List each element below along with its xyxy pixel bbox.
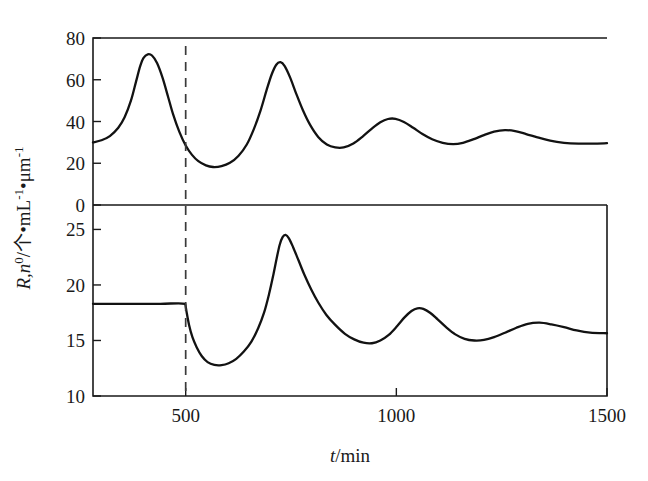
x-tick-label-500: 500 (171, 405, 200, 426)
upper-y-tick-label-0: 0 (76, 195, 86, 216)
lower-data-curve (93, 235, 607, 365)
figure-container: 020406080 10152025 50010001500 t/min R,n… (0, 0, 648, 481)
x-tick-label-1000: 1000 (377, 405, 415, 426)
lower-y-tick-labels: 10152025 (66, 219, 85, 407)
upper-y-tick-label-80: 80 (66, 28, 85, 49)
x-tick-marks (186, 388, 607, 396)
lower-y-tick-label-15: 15 (66, 330, 85, 351)
upper-y-tick-label-20: 20 (66, 153, 85, 174)
lower-y-tick-label-10: 10 (66, 386, 85, 407)
upper-panel-frame (93, 38, 607, 205)
lower-y-tick-label-25: 25 (66, 219, 85, 240)
upper-y-tick-marks (93, 38, 101, 205)
lower-y-tick-label-20: 20 (66, 275, 85, 296)
chart-svg: 020406080 10152025 50010001500 t/min R,n… (0, 0, 648, 481)
lower-panel: 10152025 (66, 205, 607, 407)
y-axis-title: R,n0/个•mL-1•μm-1 (11, 147, 34, 291)
upper-data-curve (93, 54, 607, 167)
lower-panel-frame (93, 205, 607, 396)
lower-y-tick-marks (93, 229, 101, 396)
upper-panel: 020406080 (66, 28, 607, 216)
upper-y-tick-labels: 020406080 (66, 28, 85, 216)
upper-y-tick-label-60: 60 (66, 70, 85, 91)
x-axis-title: t/min (330, 445, 371, 466)
x-tick-label-1500: 1500 (588, 405, 626, 426)
x-tick-labels: 50010001500 (171, 405, 626, 426)
upper-y-tick-label-40: 40 (66, 112, 85, 133)
